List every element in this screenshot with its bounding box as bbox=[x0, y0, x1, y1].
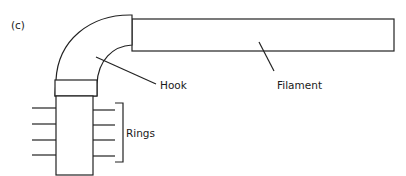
panel-label: (c) bbox=[11, 20, 25, 31]
filament-label: Filament bbox=[277, 80, 322, 91]
basal-rod-shape bbox=[56, 96, 93, 175]
hook-leader-line bbox=[96, 57, 156, 84]
hook-base-collar bbox=[55, 80, 97, 96]
hook-label: Hook bbox=[160, 80, 187, 91]
diagram-canvas bbox=[0, 0, 406, 176]
rings-label: Rings bbox=[126, 128, 155, 139]
rings-bracket bbox=[115, 103, 123, 162]
filament-shape bbox=[132, 19, 394, 51]
